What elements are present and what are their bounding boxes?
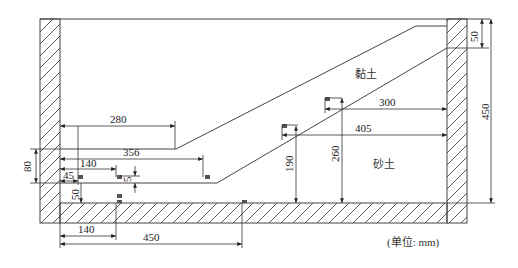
sensor-1 [78, 175, 83, 179]
sensor-3 [205, 175, 210, 179]
bottom-wall [60, 203, 447, 223]
dim-45: 45 [60, 126, 78, 185]
svg-text:450: 450 [479, 103, 491, 120]
svg-text:50: 50 [69, 189, 81, 201]
dim-300: 300 [325, 96, 447, 113]
svg-text:140: 140 [80, 157, 97, 169]
svg-text:50: 50 [468, 31, 480, 43]
box-walls [40, 19, 490, 223]
units-label: (单位: mm) [387, 235, 440, 249]
dim-405: 405 [282, 122, 447, 140]
svg-text:405: 405 [355, 122, 372, 134]
svg-text:450: 450 [143, 231, 160, 243]
clay-label: 黏土 [355, 67, 377, 81]
left-wall [40, 19, 60, 223]
svg-text:140: 140 [78, 223, 95, 235]
sand-label: 砂土 [373, 158, 395, 171]
svg-text:80: 80 [21, 161, 33, 173]
svg-text:190: 190 [283, 155, 295, 172]
model-box-diagram: 黏土 砂土 280 356 140 45 5 [0, 0, 518, 268]
dim-280: 280 [60, 113, 175, 149]
clay-top-surface [60, 26, 447, 149]
sensor-6 [242, 200, 247, 203]
right-wall [447, 19, 467, 223]
svg-text:356: 356 [123, 146, 140, 158]
dim-50-left: 50 [69, 183, 81, 203]
sensor-4 [117, 194, 122, 198]
dim-5: 5 [120, 166, 140, 193]
svg-text:45: 45 [63, 169, 75, 181]
sensor-5 [117, 200, 122, 203]
svg-text:5: 5 [121, 176, 133, 182]
svg-text:280: 280 [110, 113, 127, 125]
svg-text:300: 300 [379, 96, 396, 108]
svg-text:260: 260 [329, 145, 341, 162]
